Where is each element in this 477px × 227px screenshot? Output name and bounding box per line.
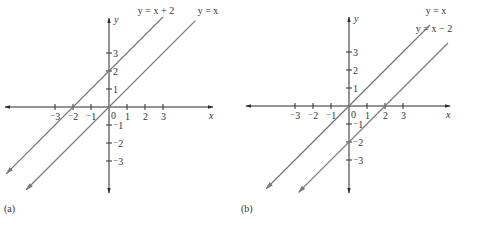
y-axis-label: y	[353, 13, 359, 24]
series-line	[266, 25, 430, 189]
series-label: y = x + 2	[138, 5, 174, 16]
origin-label: 0	[111, 110, 116, 121]
x-tick-label: 3	[401, 110, 406, 121]
y-tick-label: ⁻2	[353, 137, 363, 148]
x-tick-label: 2	[383, 110, 388, 121]
y-tick-label: 2	[353, 65, 358, 76]
x-tick-label: 1	[365, 110, 370, 121]
y-tick-label: 3	[353, 47, 358, 58]
panel-label-b: (b)	[241, 203, 253, 214]
series-line	[26, 21, 195, 190]
series-line	[299, 43, 448, 192]
graph-panel-a: ⁻3⁻2⁻1123⁻3⁻2⁻11230xyy = x + 2y = x	[5, 5, 218, 193]
series-label: y = x	[426, 5, 447, 16]
y-tick-label: ⁻3	[113, 156, 123, 167]
y-tick-label: 1	[353, 83, 358, 94]
graph-panel-b: ⁻3⁻2⁻1123⁻3⁻2⁻11230xyy = xy = x − 2	[246, 5, 452, 193]
y-tick-label: 2	[113, 66, 118, 77]
x-tick-label: ⁻2	[68, 111, 78, 122]
x-tick-label: ⁻3	[290, 110, 300, 121]
x-tick-label: 3	[161, 111, 166, 122]
x-tick-label: ⁻2	[308, 110, 318, 121]
x-axis-label: x	[208, 110, 214, 121]
x-axis-label: x	[445, 109, 451, 120]
x-tick-label: 1	[125, 111, 130, 122]
y-tick-label: ⁻2	[113, 138, 123, 149]
series-label: y = x	[198, 5, 219, 16]
y-tick-label: 1	[113, 84, 118, 95]
x-tick-label: 2	[143, 111, 148, 122]
series-line	[6, 17, 163, 174]
y-axis-label: y	[113, 14, 119, 25]
y-tick-label: 3	[113, 48, 118, 59]
series-label: y = x − 2	[416, 23, 452, 34]
origin-label: 0	[351, 109, 356, 120]
y-tick-label: ⁻3	[353, 155, 363, 166]
y-tick-label: ⁻1	[113, 120, 123, 131]
panel-label-a: (a)	[4, 203, 15, 214]
graph-figure: ⁻3⁻2⁻1123⁻3⁻2⁻11230xyy = x + 2y = x ⁻3⁻2…	[0, 0, 477, 227]
